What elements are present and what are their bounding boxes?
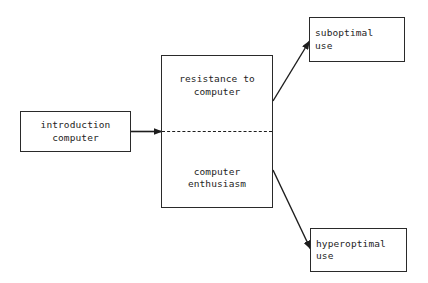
node-suboptimal-line2: use: [315, 40, 332, 53]
node-attitude-split[interactable]: resistance to computer computer enthusia…: [161, 55, 273, 208]
node-attitude-bottom-half: computer enthusiasm: [162, 131, 272, 207]
node-attitude-top-line2: computer: [194, 86, 241, 99]
node-attitude-dashed-divider: [162, 131, 272, 132]
node-suboptimal-line1: suboptimal: [315, 27, 373, 40]
node-hyperoptimal-use[interactable]: hyperoptimal use: [310, 228, 407, 272]
node-attitude-bottom-line2: enthusiasm: [188, 178, 246, 191]
edge-attitude-to-hyperoptimal: [273, 170, 311, 249]
node-attitude-top-half: resistance to computer: [162, 56, 272, 131]
node-attitude-top-line1: resistance to: [179, 73, 255, 86]
node-suboptimal-use[interactable]: suboptimal use: [309, 17, 405, 62]
edge-attitude-to-suboptimal: [273, 41, 310, 101]
diagram-canvas: introduction computer resistance to comp…: [0, 0, 428, 283]
node-hyperoptimal-line2: use: [316, 250, 333, 263]
node-introduction-line2: computer: [52, 132, 99, 145]
node-attitude-bottom-line1: computer: [194, 166, 241, 179]
node-hyperoptimal-line1: hyperoptimal: [316, 238, 386, 251]
node-introduction-computer[interactable]: introduction computer: [20, 111, 131, 152]
node-introduction-line1: introduction: [41, 119, 111, 132]
